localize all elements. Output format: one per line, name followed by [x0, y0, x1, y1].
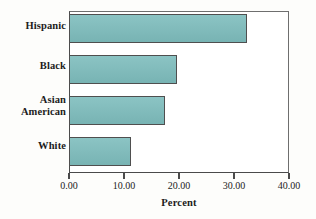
x-tick-label: 20.00	[155, 180, 203, 191]
x-tick-mark	[233, 173, 234, 179]
category-label-white: White	[2, 140, 66, 152]
bar-hispanic[interactable]	[69, 14, 247, 43]
x-tick-label: 10.00	[100, 180, 148, 191]
x-tick-label: 40.00	[265, 180, 313, 191]
category-label-black: Black	[2, 60, 66, 72]
bar-black[interactable]	[69, 55, 177, 84]
x-tick-mark	[178, 173, 179, 179]
chart-figure: Hispanic Black Asian American White 0.00…	[0, 0, 316, 219]
category-label-asian-line2: American	[2, 106, 66, 118]
bar-white[interactable]	[69, 137, 131, 166]
x-tick-label: 30.00	[210, 180, 258, 191]
x-tick-label: 0.00	[45, 180, 93, 191]
bar-series	[69, 11, 289, 173]
bar-asian-american[interactable]	[69, 96, 165, 125]
category-label-asian-line1: Asian	[2, 94, 66, 106]
category-label-asian-american: Asian American	[2, 94, 66, 117]
category-axis-labels: Hispanic Black Asian American White	[0, 11, 66, 173]
x-tick-mark	[68, 173, 69, 179]
x-tick-mark	[288, 173, 289, 179]
category-label-hispanic: Hispanic	[2, 20, 66, 32]
x-tick-mark	[123, 173, 124, 179]
x-axis-title: Percent	[69, 197, 289, 208]
